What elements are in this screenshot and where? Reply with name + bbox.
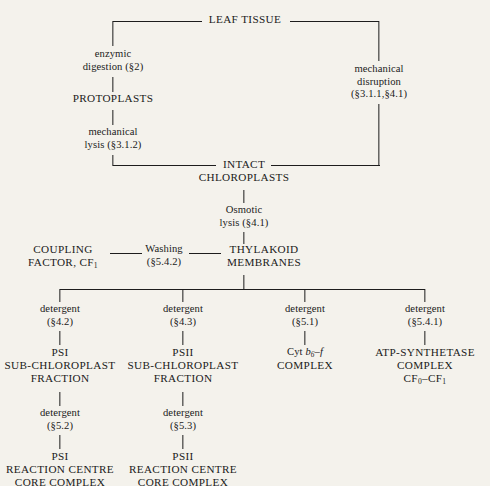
detergent-branch2-line1: detergent [163,303,203,316]
washing-line1: Washing [145,243,183,256]
mechanical-disruption-line2: disruption [351,76,407,89]
detergent-branch2b-line2: (§5.3) [163,420,203,433]
mechanical-disruption-line1: mechanical [351,63,407,76]
detergent-branch3-line1: detergent [285,303,325,316]
enzymic-digestion-line2: digestion (§2) [83,61,144,74]
connector-detergent2b-to-psii-rc [182,435,183,449]
node-psii-sub-chloroplast-fraction: PSII SUB-CHLOROPLAST FRACTION [128,346,239,386]
psi-rc-line3: CORE COMPLEX [6,476,114,486]
detergent-branch1b-line1: detergent [40,407,80,420]
connector-leaf-right-horizontal [290,21,379,22]
detergent-branch2-line2: (§4.3) [163,316,203,329]
detergent-branch1-line2: (§4.2) [40,316,80,329]
cf0-label: CF [403,372,417,384]
psi-subchloroplast-line2: SUB-CHLOROPLAST [5,359,116,372]
coupling-factor-line2: FACTOR, CF1 [28,256,98,271]
node-mechanical-disruption: mechanical disruption (§3.1.1,§4.1) [351,63,407,101]
coupling-factor-line1: COUPLING [28,243,98,256]
protoplasts-label: PROTOPLASTS [73,92,154,105]
node-psi-reaction-centre-core-complex: PSI REACTION CENTRE CORE COMPLEX [6,450,114,486]
connector-chloroplasts-to-osmotic [243,190,244,203]
coupling-factor-subscript: 1 [94,261,98,270]
detergent-branch1-line1: detergent [40,303,80,316]
connector-detergent3-to-cytb6f [304,331,305,345]
node-washing: Washing (§5.4.2) [145,243,183,268]
thylakoid-membranes-line2: MEMBRANES [227,256,301,269]
node-cyt-b6-f-complex: Cyt b6–f COMPLEX [277,346,333,372]
node-detergent-branch3: detergent (§5.1) [285,303,325,328]
detergent-branch4-line2: (§5.4.1) [405,316,445,329]
node-thylakoid-membranes: THYLAKOID MEMBRANES [227,243,301,269]
connector-bus-to-branch1 [59,289,60,302]
cyt-f-italic: f [320,346,323,357]
detergent-branch2b-line1: detergent [163,407,203,420]
node-detergent-branch4: detergent (§5.4.1) [405,303,445,328]
connector-bus-to-branch2 [182,289,183,302]
connector-thylakoid-to-bus [243,275,244,290]
node-atp-synthetase-complex: ATP-SYNTHETASE COMPLEX CF0–CF1 [375,346,475,387]
intact-chloroplasts-line2: CHLOROPLASTS [199,171,290,184]
connector-enzymic-to-protoplasts [112,77,113,92]
psii-subchloroplast-line1: PSII [128,346,239,359]
connector-psi-fraction-to-detergent [59,392,60,406]
psi-rc-line1: PSI [6,450,114,463]
coupling-factor-text: FACTOR, CF [28,256,94,268]
node-protoplasts: PROTOPLASTS [73,92,154,105]
atp-synthetase-line2: COMPLEX [375,359,475,372]
connector-mechanical-disruption-to-chloroplasts [378,104,379,165]
psii-subchloroplast-line3: FRACTION [128,372,239,385]
node-coupling-factor: COUPLING FACTOR, CF1 [28,243,98,271]
connector-four-way-bus [60,289,425,290]
mechanical-lysis-line2: lysis (§3.1.2) [84,139,141,152]
node-intact-chloroplasts: INTACT CHLOROPLASTS [199,158,290,184]
osmotic-lysis-line1: Osmotic [220,204,269,217]
connector-detergent1b-to-psi-rc [59,435,60,449]
cyt-label: Cyt [287,346,305,357]
connector-leaf-left-horizontal [113,21,202,22]
osmotic-lysis-line2: lysis (§4.1) [220,217,269,230]
connector-bus-to-branch3 [304,289,305,302]
node-psii-reaction-centre-core-complex: PSII REACTION CENTRE CORE COMPLEX [129,450,237,486]
connector-leaf-to-enzymic [112,21,113,46]
node-detergent-branch2b: detergent (§5.3) [163,407,203,432]
connector-detergent1-to-psi-fraction [59,331,60,345]
cf-dash-label: –CF [422,372,442,384]
mechanical-disruption-line3: (§3.1.1,§4.1) [351,88,407,101]
atp-synthetase-line3: CF0–CF1 [375,372,475,387]
psii-subchloroplast-line2: SUB-CHLOROPLAST [128,359,239,372]
connector-leaf-to-mechanical-disruption [378,21,379,61]
connector-psii-fraction-to-detergent [182,392,183,406]
atp-synthetase-line1: ATP-SYNTHETASE [375,346,475,359]
node-leaf-tissue: LEAF TISSUE [209,13,281,26]
connector-detergent2-to-psii-fraction [182,331,183,345]
node-mechanical-lysis: mechanical lysis (§3.1.2) [84,126,141,151]
cyt-b6f-line1: Cyt b6–f [277,346,333,359]
connector-detergent4-to-atp-synthetase [424,331,425,345]
mechanical-lysis-line1: mechanical [84,126,141,139]
psii-rc-line1: PSII [129,450,237,463]
connector-washing-to-thylakoid [189,253,221,254]
node-enzymic-digestion: enzymic digestion (§2) [83,48,144,73]
thylakoid-membranes-line1: THYLAKOID [227,243,301,256]
washing-line2: (§5.4.2) [145,256,183,269]
psii-rc-line3: CORE COMPLEX [129,476,237,486]
flowchart-diagram: LEAF TISSUE enzymic digestion (§2) mecha… [0,0,490,486]
detergent-branch1b-line2: (§5.2) [40,420,80,433]
psii-rc-line2: REACTION CENTRE [129,463,237,476]
node-detergent-branch1b: detergent (§5.2) [40,407,80,432]
connector-coupling-to-washing [110,253,142,254]
connector-bus-to-branch4 [424,289,425,302]
leaf-tissue-label: LEAF TISSUE [209,13,281,26]
cf1-subscript: 1 [442,377,446,386]
detergent-branch3-line2: (§5.1) [285,316,325,329]
psi-subchloroplast-line3: FRACTION [5,372,116,385]
psi-subchloroplast-line1: PSI [5,346,116,359]
intact-chloroplasts-line1: INTACT [199,158,290,171]
enzymic-digestion-line1: enzymic [83,48,144,61]
psi-rc-line2: REACTION CENTRE [6,463,114,476]
cyt-b6f-line2: COMPLEX [277,359,333,372]
detergent-branch4-line1: detergent [405,303,445,316]
node-detergent-branch2: detergent (§4.3) [163,303,203,328]
connector-protoplasts-to-lysis [112,110,113,125]
node-detergent-branch1: detergent (§4.2) [40,303,80,328]
